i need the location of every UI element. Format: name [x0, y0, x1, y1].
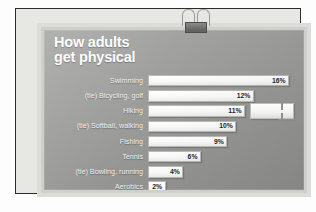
- category-label: (tie) Softball, walking: [44, 122, 148, 130]
- category-label: Tennis: [44, 153, 148, 161]
- bar-chart: Swimming16%(tie) Bicycling, golf12%Hikin…: [44, 74, 304, 190]
- bar: 11%: [148, 105, 245, 116]
- bar-value-label: 2%: [152, 183, 164, 190]
- bar-track: 6%: [148, 151, 298, 162]
- bar-track: 4%: [148, 166, 298, 177]
- page-title: How adults get physical: [54, 35, 135, 65]
- bar: 16%: [148, 75, 289, 86]
- chart-row: Aerobics2%: [44, 180, 298, 190]
- category-label: (tie) Bowling, running: [44, 168, 148, 176]
- edge-clamp-post: [281, 113, 283, 121]
- category-label: Swimming: [44, 77, 148, 85]
- edge-clamp-post: [299, 113, 301, 121]
- chart-row: Fishing9%: [44, 135, 298, 149]
- bar-value-label: 9%: [214, 138, 226, 146]
- bar: 12%: [148, 90, 254, 101]
- bar: 2%: [148, 181, 166, 190]
- bar: 6%: [148, 151, 201, 162]
- binder-clip-icon: [176, 9, 216, 35]
- bar-value-label: 6%: [188, 153, 200, 161]
- category-label: (tie) Bicycling, golf: [44, 92, 148, 100]
- bar-track: 9%: [148, 136, 298, 147]
- binder-clip-body: [185, 22, 207, 33]
- chart-row: Swimming16%: [44, 74, 298, 88]
- category-label: Aerobics: [44, 183, 148, 190]
- edge-clamp-plate: [250, 103, 294, 119]
- bar-value-label: 16%: [272, 77, 288, 85]
- bar-value-label: 11%: [228, 107, 244, 115]
- category-label: Hiking: [44, 107, 148, 115]
- bar: 4%: [148, 166, 183, 177]
- bar: 9%: [148, 136, 227, 147]
- edge-clamp-icon: [250, 94, 306, 128]
- bar-track: 16%: [148, 75, 298, 86]
- bar: 10%: [148, 121, 236, 132]
- chart-row: (tie) Bowling, running4%: [44, 165, 298, 179]
- screenshot-canvas: How adults get physical Swimming16%(tie)…: [0, 0, 316, 212]
- category-label: Fishing: [44, 138, 148, 146]
- bar-track: 2%: [148, 181, 298, 190]
- edge-clamp-post: [299, 102, 301, 110]
- edge-clamp-post: [281, 102, 283, 110]
- chart-row: Tennis6%: [44, 150, 298, 164]
- bar-value-label: 10%: [219, 122, 235, 130]
- bar-value-label: 4%: [170, 168, 182, 176]
